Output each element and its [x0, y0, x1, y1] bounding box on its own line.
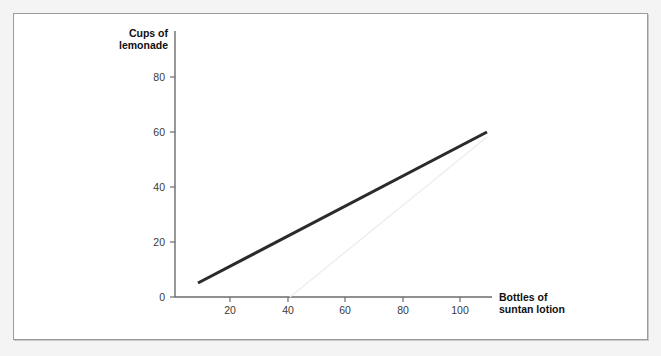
x-tick-label-40: 40: [282, 304, 294, 316]
x-tick-label-20: 20: [224, 304, 236, 316]
chart-plot-area: 0 20 40 60 80 20 40 60 80 100 Cups of le…: [14, 14, 649, 341]
y-tick-label-40: 40: [153, 181, 165, 193]
x-tick-label-100: 100: [451, 304, 469, 316]
x-axis-title-line2: suntan lotion: [499, 303, 565, 315]
y-tick-label-80: 80: [153, 71, 165, 83]
y-tick-label-20: 20: [153, 236, 165, 248]
y-tick-label-60: 60: [153, 126, 165, 138]
series-line-primary: [198, 132, 487, 283]
chart-frame: 0 20 40 60 80 20 40 60 80 100 Cups of le…: [13, 13, 648, 340]
y-tick-label-0: 0: [159, 291, 165, 303]
x-axis-title-line1: Bottles of: [499, 291, 548, 303]
y-axis-title-line2: lemonade: [119, 39, 168, 51]
series-line-secondary: [290, 137, 487, 297]
x-tick-label-60: 60: [339, 304, 351, 316]
x-tick-label-80: 80: [397, 304, 409, 316]
y-axis-title-line1: Cups of: [129, 27, 169, 39]
chart-page: 0 20 40 60 80 20 40 60 80 100 Cups of le…: [0, 0, 661, 356]
